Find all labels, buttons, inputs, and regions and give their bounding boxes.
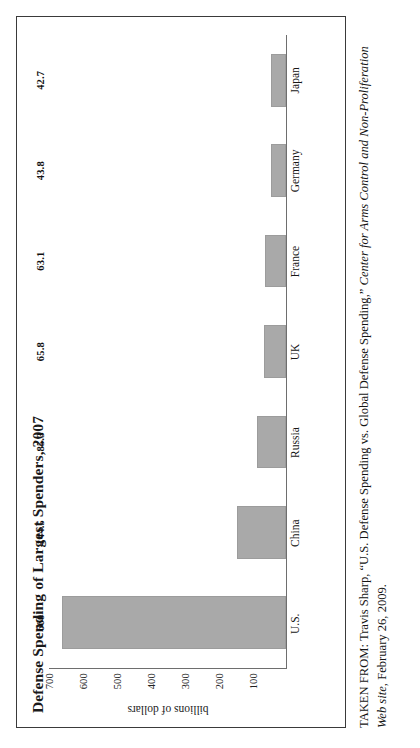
bar-value-label: 85.3 <box>35 432 46 451</box>
bar-series: 660144.585.365.863.143.842.7 <box>49 35 286 668</box>
x-axis-category-label: France <box>289 222 301 302</box>
bar-value-label: 42.7 <box>35 71 46 90</box>
y-axis-tick-label: 300 <box>180 673 191 689</box>
bar-rect: 85.3 <box>257 416 286 469</box>
bar-value-label: 65.8 <box>35 342 46 361</box>
y-axis-ticks: 700600500400300200100 <box>49 671 287 701</box>
x-axis-category-labels: U.S.ChinaRussiaUKFranceGermanyJapan <box>289 35 301 669</box>
plot-area: 660144.585.365.863.143.842.7 <box>49 35 287 669</box>
bar-rect: 144.5 <box>237 506 286 559</box>
bar-value-label: 660 <box>35 615 46 631</box>
caption-lead: TAKEN FROM: Travis Sharp, “U.S. Defense … <box>357 285 371 728</box>
x-axis-category-label: Japan <box>289 40 301 120</box>
x-axis-category-label: Germany <box>289 131 301 211</box>
y-axis-tick-label: 400 <box>146 673 157 689</box>
bar-item: 42.7 <box>49 40 286 120</box>
x-axis-category-label: China <box>289 493 301 573</box>
figure-caption: TAKEN FROM: Travis Sharp, “U.S. Defense … <box>356 22 392 728</box>
x-axis-category-label: Russia <box>289 403 301 483</box>
page: Defense Spending of Largest Spenders, 20… <box>0 0 420 748</box>
bar-value-label: 144.5 <box>35 520 46 545</box>
bar-rect: 65.8 <box>264 325 286 378</box>
x-axis-category-label: U.S. <box>289 584 301 664</box>
bar-rect: 660 <box>62 596 286 649</box>
y-axis-tick-label: 700 <box>44 673 55 689</box>
bar-item: 85.3 <box>49 402 286 482</box>
y-axis-tick-label: 100 <box>248 673 259 689</box>
y-axis-title-label: billions of dollars <box>127 704 208 716</box>
bar-rect: 43.8 <box>271 144 286 197</box>
y-axis-tick-label: 500 <box>112 673 123 689</box>
bar-rect: 42.7 <box>271 54 286 107</box>
figure-title: Defense Spending of Largest Spenders, 20… <box>29 31 47 713</box>
y-axis-tick-label: 200 <box>214 673 225 689</box>
bar-item: 63.1 <box>49 221 286 301</box>
bar-item: 65.8 <box>49 312 286 392</box>
bar-item: 144.5 <box>49 493 286 573</box>
x-axis-category-label: UK <box>289 312 301 392</box>
bar-chart: billions of dollars 70060050040030020010… <box>49 31 333 715</box>
y-axis-title: billions of dollars <box>49 701 287 719</box>
bar-rect: 63.1 <box>265 235 286 288</box>
caption-tail: , February 26, 2009. <box>375 584 389 686</box>
figure-box: Defense Spending of Largest Spenders, 20… <box>16 16 346 728</box>
bar-item: 43.8 <box>49 131 286 211</box>
bar-item: 660 <box>49 583 286 663</box>
bar-value-label: 63.1 <box>35 252 46 271</box>
y-axis-tick-label: 600 <box>78 673 89 689</box>
rotated-page-container: Defense Spending of Largest Spenders, 20… <box>0 0 420 748</box>
bar-value-label: 43.8 <box>35 161 46 180</box>
